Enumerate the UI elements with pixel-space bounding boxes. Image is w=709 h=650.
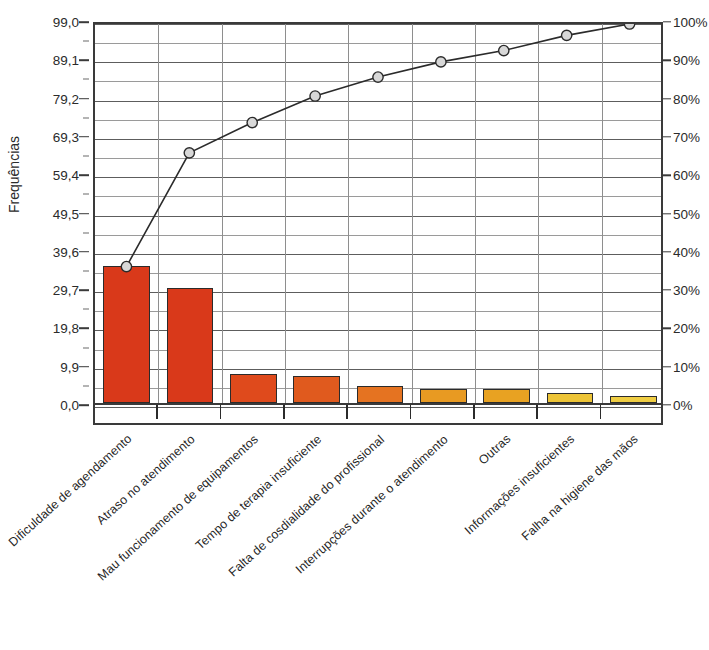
- right-axis-tick: [663, 60, 671, 61]
- cumulative-marker: [310, 91, 320, 101]
- y-axis-tick: [79, 404, 89, 406]
- y-axis-tick-label: 89,1: [19, 53, 79, 68]
- right-axis-tick: [663, 174, 671, 175]
- y-axis-tick: [79, 251, 89, 253]
- y-axis-tick-label: 39,6: [19, 244, 79, 259]
- cumulative-marker: [499, 45, 509, 55]
- right-axis-tick: [663, 98, 671, 99]
- cumulative-marker: [121, 261, 131, 271]
- y-axis-minor-tick: [83, 79, 89, 80]
- y-axis-tick-label: 79,2: [19, 91, 79, 106]
- right-axis-tick: [663, 251, 671, 252]
- y-axis-tick: [79, 136, 89, 138]
- y-axis-minor-tick: [83, 385, 89, 386]
- right-axis-tick-label: 100%: [673, 15, 708, 30]
- y-axis-tick-label: 9,9: [19, 359, 79, 374]
- right-axis-tick-label: 40%: [673, 244, 700, 259]
- right-axis-tick: [663, 213, 671, 214]
- pareto-chart: Frequências 0,09,919,829,739,649,559,469…: [0, 0, 709, 650]
- y-axis-tick: [79, 60, 89, 62]
- left-axis: 0,09,919,829,739,649,559,469,379,289,199…: [0, 0, 93, 650]
- x-axis-tick: [220, 405, 222, 419]
- y-axis-tick: [79, 366, 89, 368]
- x-axis-tick: [536, 405, 538, 419]
- y-axis-tick-label: 19,8: [19, 321, 79, 336]
- y-axis-minor-tick: [83, 194, 89, 195]
- right-axis-tick-label: 10%: [673, 359, 700, 374]
- y-axis-tick: [79, 21, 89, 23]
- x-axis-tick: [283, 405, 285, 419]
- cumulative-marker: [436, 57, 446, 67]
- right-axis-tick: [663, 404, 671, 405]
- x-axis-category-label: Tempo de terapia insuficiente: [193, 432, 324, 552]
- y-axis-tick: [79, 98, 89, 100]
- y-axis-tick-label: 29,7: [19, 283, 79, 298]
- y-axis-minor-tick: [83, 232, 89, 233]
- x-axis-category-label: Informações insuficientes: [462, 432, 577, 538]
- y-axis-minor-tick: [83, 347, 89, 348]
- plot-area: [93, 22, 663, 405]
- y-axis-tick: [79, 289, 89, 291]
- cumulative-marker: [624, 24, 634, 29]
- right-axis-tick-label: 20%: [673, 321, 700, 336]
- y-axis-tick: [79, 213, 89, 215]
- y-axis-tick: [79, 328, 89, 330]
- right-axis-tick: [663, 289, 671, 290]
- x-axis-tick: [473, 405, 475, 419]
- cumulative-line-layer: [95, 24, 661, 403]
- right-axis-tick: [663, 366, 671, 367]
- y-axis-tick: [79, 174, 89, 176]
- right-axis-tick: [663, 21, 671, 22]
- y-axis-tick-label: 99,0: [19, 15, 79, 30]
- right-axis-tick: [663, 136, 671, 137]
- y-axis-minor-tick: [83, 117, 89, 118]
- y-axis-minor-tick: [83, 309, 89, 310]
- cumulative-marker: [562, 30, 572, 40]
- cumulative-marker: [184, 148, 194, 158]
- x-axis-tick: [410, 405, 412, 419]
- right-axis-tick-label: 50%: [673, 206, 700, 221]
- y-axis-tick-label: 49,5: [19, 206, 79, 221]
- right-axis-tick-label: 70%: [673, 129, 700, 144]
- x-axis-category-label: Outras: [476, 432, 513, 468]
- right-axis-tick: [663, 328, 671, 329]
- y-axis-tick-label: 59,4: [19, 168, 79, 183]
- x-axis-tick: [600, 405, 602, 419]
- right-axis-tick-label: 80%: [673, 91, 700, 106]
- y-axis-minor-tick: [83, 41, 89, 42]
- x-axis-band: [93, 405, 663, 425]
- x-axis-tick: [346, 405, 348, 419]
- cumulative-line: [126, 24, 629, 267]
- cumulative-marker: [247, 117, 257, 127]
- right-axis-tick-label: 60%: [673, 168, 700, 183]
- y-axis-minor-tick: [83, 156, 89, 157]
- y-axis-minor-tick: [83, 270, 89, 271]
- right-axis-tick-label: 30%: [673, 283, 700, 298]
- right-axis: 0%10%20%30%40%50%60%70%80%90%100%: [663, 0, 709, 650]
- x-axis-category-label: Falha na higiene das mãos: [519, 432, 641, 544]
- right-axis-tick-label: 0%: [673, 398, 693, 413]
- y-axis-tick-label: 0,0: [19, 398, 79, 413]
- cumulative-marker: [373, 72, 383, 82]
- right-axis-tick-label: 90%: [673, 53, 700, 68]
- y-axis-tick-label: 69,3: [19, 129, 79, 144]
- x-axis-tick: [156, 405, 158, 419]
